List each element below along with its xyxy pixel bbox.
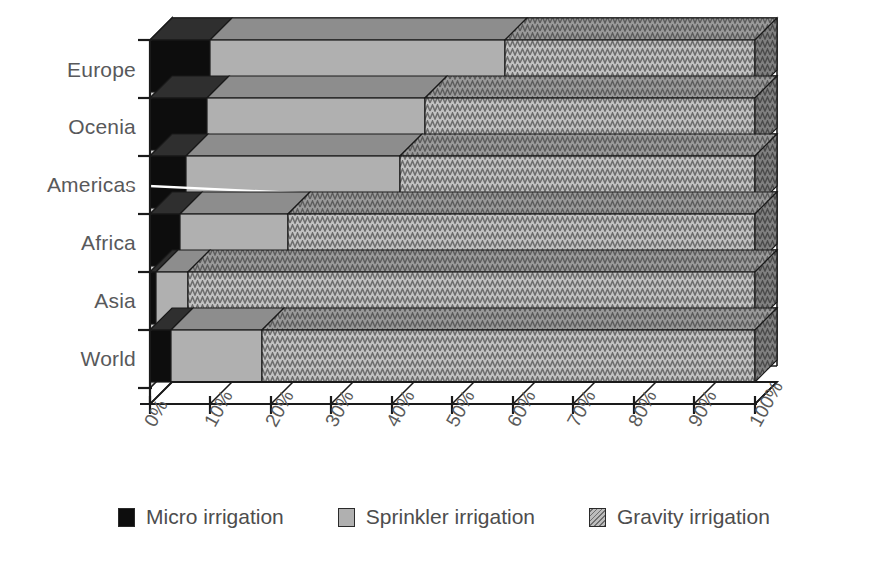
legend-item-micro[interactable]: Micro irrigation bbox=[118, 505, 284, 529]
chart-svg bbox=[0, 0, 888, 470]
micro-swatch-icon bbox=[118, 508, 135, 527]
legend-label-micro: Micro irrigation bbox=[146, 505, 284, 529]
legend-item-sprinkler[interactable]: Sprinkler irrigation bbox=[338, 505, 535, 529]
gravity-swatch-icon bbox=[589, 508, 606, 527]
chart-legend: Micro irrigation Sprinkler irrigation Gr… bbox=[0, 488, 888, 546]
legend-item-gravity[interactable]: Gravity irrigation bbox=[589, 505, 770, 529]
bar-group-world[interactable] bbox=[150, 308, 777, 382]
plot-area: 0% 10% 20% 30% 40% 50% 60% 70% 80% 90% 1… bbox=[0, 0, 888, 470]
legend-label-gravity: Gravity irrigation bbox=[617, 505, 770, 529]
sprinkler-swatch-icon bbox=[338, 508, 355, 527]
chart-container: Europe Ocenia Americas Africa Asia World bbox=[0, 0, 888, 562]
legend-label-sprinkler: Sprinkler irrigation bbox=[366, 505, 535, 529]
